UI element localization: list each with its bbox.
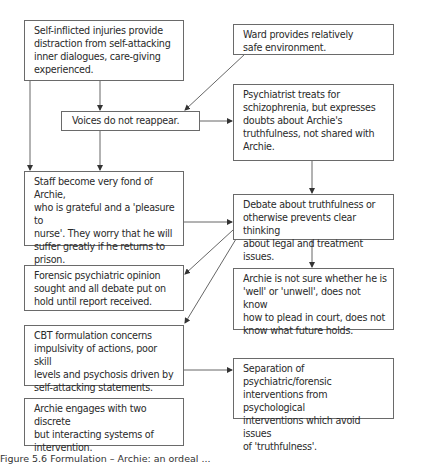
node-separation: Separation of psychiatric/forensic inter… — [233, 358, 394, 419]
node-self-injury: Self-inflicted injuries provide distract… — [24, 20, 184, 81]
figure-caption: Figure 5.6 Formulation – Archie: an orde… — [0, 453, 211, 464]
node-text: CBT formulation concerns — [34, 329, 177, 342]
node-text: know what future holds. — [243, 324, 387, 337]
node-text: Forensic psychiatric opinion — [34, 269, 177, 282]
node-text: interventions which avoid issues — [243, 414, 387, 440]
node-text: hold until report received. — [34, 295, 177, 308]
node-text: nurse'. They worry that he will — [34, 227, 177, 240]
node-psychiatrist: Psychiatrist treats for schizophrenia, b… — [233, 84, 394, 161]
node-text: levels and psychosis driven by — [34, 368, 177, 381]
node-text: experienced. — [34, 63, 177, 76]
edge-debate-to-cbt — [185, 239, 236, 323]
node-text: who is grateful and a 'pleasure to — [34, 201, 177, 227]
node-text: safe environment. — [243, 41, 387, 54]
node-text: Voices do not reappear. — [72, 114, 193, 127]
node-text: Ward provides relatively — [243, 28, 387, 41]
node-staff: Staff become very fond of Archie, who is… — [24, 171, 184, 246]
node-text: suffer greatly if he returns to — [34, 240, 177, 253]
node-text: Archie. — [243, 140, 387, 153]
node-text: but interacting systems of — [34, 428, 177, 441]
node-voices: Voices do not reappear. — [61, 111, 200, 131]
node-debate: Debate about truthfulness or otherwise p… — [233, 194, 394, 240]
node-ward: Ward provides relatively safe environmen… — [233, 24, 394, 55]
node-text: sought and all debate put on — [34, 282, 177, 295]
node-cbt: CBT formulation concerns impulsivity of … — [24, 325, 184, 386]
node-text: about legal and treatment issues. — [243, 237, 387, 263]
node-archie-unsure: Archie is not sure whether he is 'well' … — [233, 268, 394, 330]
node-text: Staff become very fond of Archie, — [34, 175, 177, 201]
node-text: how to plead in court, does not — [243, 311, 387, 324]
node-text: impulsivity of actions, poor skill — [34, 342, 177, 368]
node-text: Archie is not sure whether he is — [243, 272, 387, 285]
node-text: Archie engages with two discrete — [34, 402, 177, 428]
node-text: distraction from self-attacking — [34, 37, 177, 50]
node-text: schizophrenia, but expresses — [243, 101, 387, 114]
node-text: self-attacking statements. — [34, 381, 177, 394]
node-archie-engages: Archie engages with two discrete but int… — [24, 398, 184, 446]
node-text: doubts about Archie's — [243, 114, 387, 127]
node-text: Psychiatrist treats for — [243, 88, 387, 101]
node-forensic: Forensic psychiatric opinion sought and … — [24, 265, 184, 311]
node-text: 'well' or 'unwell', does not know — [243, 285, 387, 311]
node-text: truthfulness, not shared with — [243, 127, 387, 140]
node-text: Debate about truthfulness or — [243, 198, 387, 211]
node-text: otherwise prevents clear thinking — [243, 211, 387, 237]
node-text: inner dialogues, care-giving — [34, 50, 177, 63]
node-text: of 'truthfulness'. — [243, 440, 387, 453]
node-text: Separation of psychiatric/forensic — [243, 362, 387, 388]
node-text: interventions from psychological — [243, 388, 387, 414]
edge-debate-to-forensic — [185, 230, 233, 274]
node-text: Self-inflicted injuries provide — [34, 24, 177, 37]
